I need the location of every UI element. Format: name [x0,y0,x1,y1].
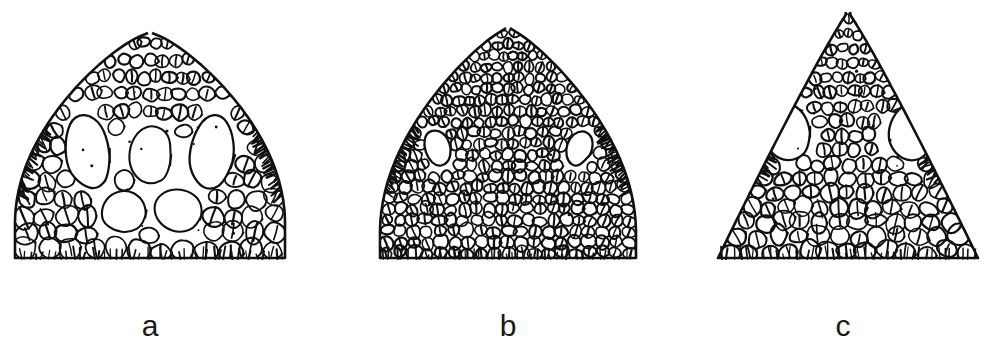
panel-label-c: c [743,309,943,343]
figure-plate: a b c [0,0,998,364]
panel-c: c [666,0,998,364]
panel-label-a: a [50,309,250,343]
panel-b: b [333,0,666,364]
panel-label-b: b [408,309,608,343]
panel-a: a [0,0,333,364]
